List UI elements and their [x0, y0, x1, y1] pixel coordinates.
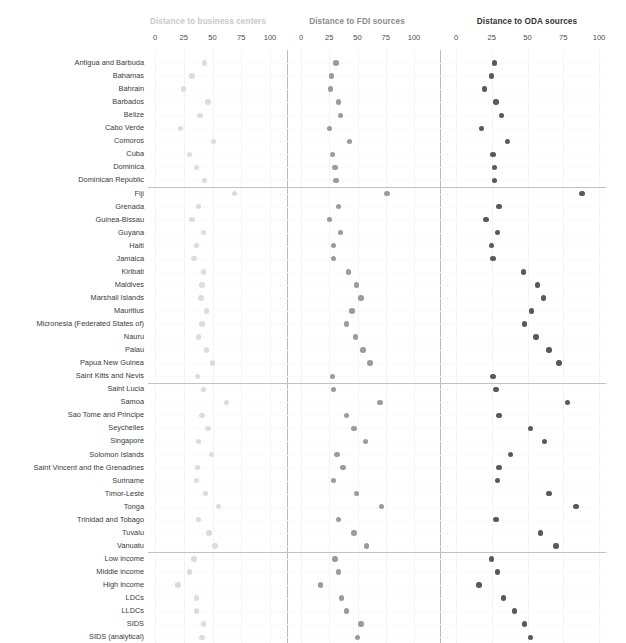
data-point	[476, 582, 481, 587]
data-point	[194, 608, 199, 613]
gridline-horizontal	[150, 481, 605, 482]
data-point	[496, 204, 501, 209]
data-point	[199, 635, 204, 640]
gridline-vertical	[155, 50, 156, 643]
x-tick-label-business-75: 75	[230, 33, 252, 42]
gridline-horizontal	[150, 76, 605, 77]
data-point	[331, 243, 336, 248]
data-point	[175, 582, 180, 587]
data-point	[201, 387, 206, 392]
data-point	[187, 152, 192, 157]
data-point	[189, 217, 194, 222]
row-label: Cuba	[0, 150, 144, 158]
gridline-vertical	[386, 50, 387, 643]
data-point	[553, 543, 558, 548]
data-point	[201, 621, 206, 626]
data-point	[328, 86, 333, 91]
row-label: Tonga	[0, 503, 144, 511]
data-point	[330, 152, 335, 157]
data-point	[529, 308, 534, 313]
row-label: Cabo Verde	[0, 124, 144, 132]
gridline-horizontal	[150, 115, 605, 116]
gridline-horizontal	[150, 220, 605, 221]
data-point	[346, 269, 351, 274]
data-point	[336, 204, 341, 209]
data-point	[528, 426, 533, 431]
row-label: SIDS (analytical)	[0, 633, 144, 641]
data-point	[495, 230, 500, 235]
data-point	[353, 334, 358, 339]
gridline-vertical	[241, 50, 242, 643]
data-point	[232, 191, 237, 196]
row-label: LDCs	[0, 594, 144, 602]
data-point	[508, 452, 513, 457]
x-tick-label-fdi-50: 50	[347, 33, 369, 42]
data-point	[546, 347, 551, 352]
row-label: Guyana	[0, 229, 144, 237]
gridline-horizontal	[150, 441, 605, 442]
gridline-vertical	[563, 50, 564, 643]
row-label: Bahamas	[0, 72, 144, 80]
data-point	[216, 504, 221, 509]
data-point	[344, 321, 349, 326]
gridline-horizontal	[150, 102, 605, 103]
data-point	[344, 608, 349, 613]
row-label: Saint Kitts and Nevis	[0, 372, 144, 380]
gridline-horizontal	[150, 376, 605, 377]
data-point	[535, 282, 540, 287]
x-tick-label-business-25: 25	[173, 33, 195, 42]
data-point	[204, 347, 209, 352]
row-label: Samoa	[0, 398, 144, 406]
group-separator	[148, 187, 606, 188]
row-label: Marshall Islands	[0, 294, 144, 302]
data-point	[538, 530, 543, 535]
data-point	[331, 387, 336, 392]
row-label: Palau	[0, 346, 144, 354]
row-label: Grenada	[0, 203, 144, 211]
data-point	[499, 113, 504, 118]
group-separator	[148, 383, 606, 384]
x-tick-label-business-100: 100	[259, 33, 281, 42]
data-point	[331, 256, 336, 261]
data-point	[178, 126, 183, 131]
gridline-horizontal	[150, 611, 605, 612]
gridline-horizontal	[150, 494, 605, 495]
gridline-horizontal	[150, 298, 605, 299]
data-point	[191, 256, 196, 261]
gridline-horizontal	[150, 154, 605, 155]
x-tick-label-oda-25: 25	[481, 33, 503, 42]
data-point	[327, 126, 332, 131]
row-label: Haiti	[0, 242, 144, 250]
data-point	[187, 569, 192, 574]
x-tick-label-oda-75: 75	[552, 33, 574, 42]
row-label: Saint Vincent and the Grenadines	[0, 464, 144, 472]
row-label: LLDCs	[0, 607, 144, 615]
data-point	[379, 504, 384, 509]
data-point	[334, 452, 339, 457]
data-point	[332, 165, 337, 170]
data-point	[358, 621, 363, 626]
row-label: Jamaica	[0, 255, 144, 263]
gridline-horizontal	[150, 272, 605, 273]
data-point	[573, 504, 578, 509]
data-point	[199, 282, 204, 287]
x-tick-label-oda-0: 0	[445, 33, 467, 42]
data-point	[205, 99, 210, 104]
data-point	[579, 191, 584, 196]
data-point	[495, 569, 500, 574]
data-point	[512, 608, 517, 613]
row-label: Saint Lucia	[0, 385, 144, 393]
data-point	[191, 556, 196, 561]
data-point	[224, 400, 229, 405]
gridline-horizontal	[150, 546, 605, 547]
data-point	[546, 491, 551, 496]
data-point	[355, 635, 360, 640]
data-point	[198, 295, 203, 300]
data-point	[493, 517, 498, 522]
panel-title-business: Distance to business centers	[150, 17, 266, 26]
data-point	[482, 86, 487, 91]
gridline-horizontal	[150, 415, 605, 416]
gridline-vertical	[456, 50, 457, 643]
row-label: Solomon Islands	[0, 451, 144, 459]
row-label: Maldives	[0, 281, 144, 289]
